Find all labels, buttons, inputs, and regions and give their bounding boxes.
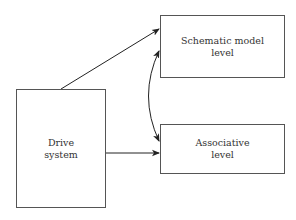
schematic-model-level-box: Schematic model level — [160, 15, 285, 78]
drive-system-label: Drive system — [44, 137, 78, 161]
arrow-drive-to-schematic — [61, 29, 159, 89]
schematic-model-level-label: Schematic model level — [181, 35, 264, 59]
associative-level-label: Associative level — [195, 137, 249, 161]
associative-level-box: Associative level — [160, 124, 285, 174]
drive-system-box: Drive system — [16, 89, 106, 208]
arrow-schematic-associative-bidirectional — [149, 51, 160, 141]
